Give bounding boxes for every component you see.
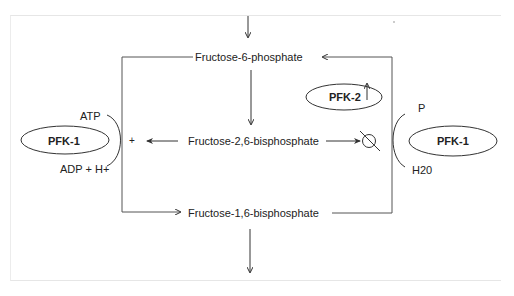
artifact-dot xyxy=(393,21,395,23)
enzyme-pfk2: PFK-2 xyxy=(329,91,361,103)
node-fructose-2-6-bisphosphate: Fructose-2,6-bisphosphate xyxy=(188,135,319,147)
node-fructose-6-phosphate: Fructose-6-phosphate xyxy=(195,51,303,63)
plus-sign: + xyxy=(129,135,135,147)
enzyme-pfk1-left: PFK-1 xyxy=(48,135,80,147)
enzyme-pfk1-right: PFK-1 xyxy=(437,135,469,147)
cofactor-adp-h: ADP + H+ xyxy=(60,163,109,175)
cofactor-p: P xyxy=(418,102,425,114)
pathway-lines xyxy=(0,0,514,296)
cofactor-atp: ATP xyxy=(80,110,101,122)
cofactor-h2o: H20 xyxy=(412,164,432,176)
inhibit-icon xyxy=(360,131,380,151)
node-fructose-1-6-bisphosphate: Fructose-1,6-bisphosphate xyxy=(188,207,319,219)
